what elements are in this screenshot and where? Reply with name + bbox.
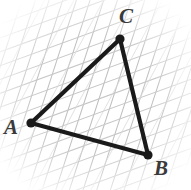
geometry-figure: A B C	[0, 0, 191, 190]
vertex-dot-b	[143, 150, 152, 159]
vertex-label-c: C	[119, 6, 133, 27]
vertex-label-b: B	[154, 158, 168, 179]
vertex-dot-c	[115, 34, 124, 43]
vertex-dot-a	[26, 118, 35, 127]
vertex-label-a: A	[4, 117, 18, 138]
